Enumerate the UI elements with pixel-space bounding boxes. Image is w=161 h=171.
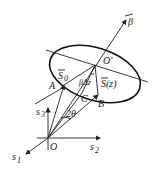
label-beta-dz: βΔz bbox=[78, 78, 92, 87]
label-O: O bbox=[50, 141, 57, 152]
label-beta: β bbox=[127, 16, 133, 27]
label-B: B bbox=[98, 98, 104, 109]
label-Sz: S(z) bbox=[101, 78, 117, 90]
label-s1: s bbox=[12, 151, 16, 162]
label-s3: s bbox=[36, 106, 40, 117]
label-s2: s bbox=[90, 141, 94, 152]
s1-axis bbox=[26, 138, 48, 154]
vector-S0 bbox=[48, 85, 64, 138]
label-s1-sub: 1 bbox=[17, 156, 21, 165]
label-2theta: 2θ bbox=[66, 108, 76, 119]
poincare-diagram: β O' S 0 S(z) βΔz A B C 2θ O s 1 s 2 s 3 bbox=[0, 0, 161, 171]
label-O-prime: O' bbox=[103, 55, 113, 66]
label-s3-sub: 3 bbox=[40, 110, 45, 119]
label-C: C bbox=[81, 93, 88, 104]
label-S0-sub: 0 bbox=[64, 74, 68, 83]
label-s2-sub: 2 bbox=[95, 146, 99, 155]
label-A: A bbox=[48, 80, 56, 91]
line-OC bbox=[48, 93, 82, 138]
radius-O-prime-Sz bbox=[95, 65, 98, 95]
label-S0: S bbox=[58, 70, 63, 81]
